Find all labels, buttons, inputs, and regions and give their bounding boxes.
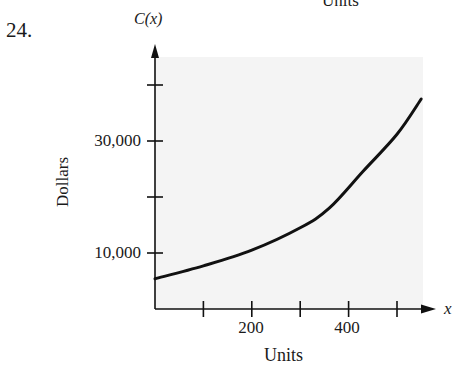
plot-background: [155, 57, 423, 309]
y-axis-arrow-icon: [151, 44, 159, 58]
chart-plot: [0, 0, 459, 377]
x-axis-arrow-icon: [421, 305, 436, 314]
